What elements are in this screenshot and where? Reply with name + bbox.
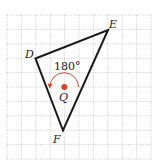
rotation-diagram: D E F Q 180° bbox=[0, 0, 155, 165]
label-e: E bbox=[108, 18, 117, 31]
label-d: D bbox=[24, 48, 34, 61]
triangle-def bbox=[36, 30, 109, 131]
arrowhead-icon bbox=[48, 84, 53, 89]
label-q: Q bbox=[59, 91, 68, 104]
label-f: F bbox=[52, 133, 61, 146]
angle-label: 180° bbox=[54, 60, 81, 73]
center-point-q bbox=[61, 84, 67, 90]
